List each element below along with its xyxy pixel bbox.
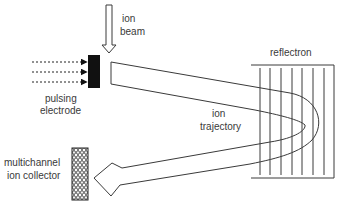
ion-trajectory-label-line2: trajectory bbox=[200, 121, 241, 132]
reflectron-label: reflectron bbox=[270, 47, 312, 58]
multichannel-ion-collector bbox=[72, 148, 88, 200]
ion-beam-label-line1: ion bbox=[122, 13, 135, 24]
pulsing-electrode bbox=[88, 55, 100, 88]
pulse-dashed-arrows bbox=[32, 62, 87, 82]
collector-label-line1: multichannel bbox=[4, 157, 60, 168]
ion-beam-arrow bbox=[102, 5, 116, 53]
reflectron-tof-diagram: ion beam pulsing electrode reflectron io… bbox=[0, 0, 339, 209]
ion-beam-label-line2: beam bbox=[120, 26, 145, 37]
ion-trajectory-label-line1: ion bbox=[212, 108, 225, 119]
collector-label-line2: ion collector bbox=[7, 170, 61, 181]
pulsing-electrode-label-line1: pulsing bbox=[45, 93, 77, 104]
pulsing-electrode-label-line2: electrode bbox=[40, 105, 82, 116]
